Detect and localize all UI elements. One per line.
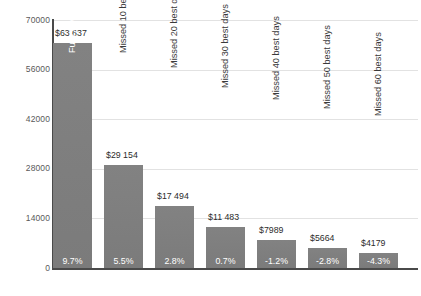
bar-item[interactable] (53, 43, 92, 268)
bar-value-label: $17 494 (157, 191, 227, 201)
bar-value-label: $4179 (361, 238, 421, 248)
bar-percent-label: 5.5% (104, 256, 143, 266)
bar-value-label: $63 637 (55, 28, 125, 38)
bar-value-label: $29 154 (106, 150, 176, 160)
bar-percent-label: 0.7% (206, 256, 245, 266)
bar-category-label: Fully invested (67, 0, 77, 53)
bar-value-label: $11 483 (208, 212, 278, 222)
bar-category-label: Missed 30 best days (220, 4, 230, 88)
bar-percent-label: -1.2% (257, 256, 296, 266)
bar-percent-label: -2.8% (308, 256, 347, 266)
bar-item[interactable] (104, 165, 143, 268)
bar-series: $63 637 Fully invested 9.7% $29 154 Miss… (0, 0, 421, 296)
bar-percent-label: 2.8% (155, 256, 194, 266)
bar-category-label: Missed 60 best days (373, 32, 383, 116)
bar-percent-label: -4.3% (359, 256, 398, 266)
bar-category-label: Missed 40 best days (271, 16, 281, 100)
bar-chart: 70000 56000 42000 28000 14000 0 $63 637 … (0, 0, 421, 296)
bar-category-label: Missed 20 best days (169, 0, 179, 68)
bar-category-label: Missed 10 best days (118, 0, 128, 53)
bar-category-label: Missed 50 best days (322, 25, 332, 109)
bar-percent-label: 9.7% (53, 256, 92, 266)
